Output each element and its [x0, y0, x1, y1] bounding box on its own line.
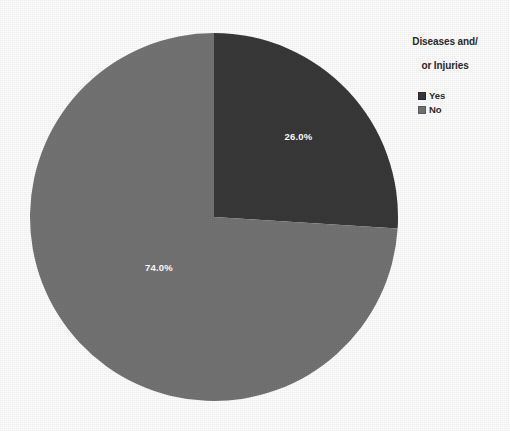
legend-swatch-yes-icon: [418, 92, 426, 100]
legend: Diseases and/ or Injuries Yes No: [386, 24, 504, 117]
legend-swatch-no-icon: [418, 106, 426, 114]
pie-slice-label-yes: 26.0%: [285, 131, 313, 142]
legend-item-no[interactable]: No: [418, 103, 504, 116]
pie-svg: 26.0% 74.0%: [29, 32, 399, 402]
legend-title: Diseases and/ or Injuries: [386, 24, 504, 84]
pie-chart-figure: 26.0% 74.0% Diseases and/ or Injuries Ye…: [0, 0, 510, 431]
legend-title-line-1: Diseases and/: [386, 36, 504, 48]
legend-item-yes[interactable]: Yes: [418, 89, 504, 102]
legend-items: Yes No: [386, 89, 504, 116]
legend-item-label-no: No: [429, 105, 441, 115]
pie-chart-plot-area: 26.0% 74.0%: [29, 32, 399, 402]
legend-item-label-yes: Yes: [429, 91, 445, 101]
legend-title-line-2: or Injuries: [386, 60, 504, 72]
pie-slice-label-no: 74.0%: [145, 262, 173, 273]
pie-slices: [30, 33, 398, 401]
